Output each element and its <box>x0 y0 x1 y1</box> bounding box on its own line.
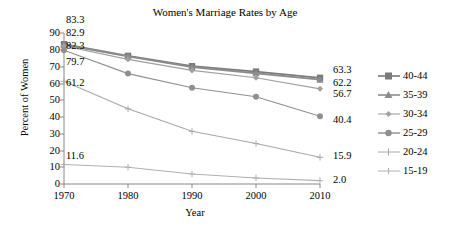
legend-label-25-29: 25-29 <box>403 127 428 138</box>
legend-item-15-19[interactable]: 15-19 <box>378 161 428 180</box>
legend-label-15-19: 15-19 <box>403 165 428 176</box>
legend-item-30-34[interactable]: 30-34 <box>378 104 428 123</box>
legend-item-20-24[interactable]: 20-24 <box>378 142 428 161</box>
y-axis-ticks <box>60 33 64 184</box>
series-35-39 <box>60 41 323 82</box>
value-label-right-4044: 63.3 <box>333 64 351 75</box>
legend-item-35-39[interactable]: 35-39 <box>378 85 428 104</box>
legend-item-25-29[interactable]: 25-29 <box>378 123 428 142</box>
legend-label-35-39: 35-39 <box>403 89 428 100</box>
series-40-44 <box>61 41 323 81</box>
value-label-right-2024: 15.9 <box>333 150 351 161</box>
chart-legend: 40-44 35-39 30-34 25-29 20-24 <box>378 66 428 180</box>
legend-item-40-44[interactable]: 40-44 <box>378 66 428 85</box>
value-label-left-3539: 82.9 <box>66 27 84 38</box>
legend-marker-circle-icon <box>378 127 400 139</box>
series-25-29 <box>61 47 323 119</box>
x-axis-ticks <box>64 184 320 188</box>
value-label-left-1519: 11.6 <box>66 150 84 161</box>
legend-marker-plus-icon <box>378 146 400 158</box>
value-label-right-2529: 40.4 <box>333 114 351 125</box>
legend-label-30-34: 30-34 <box>403 108 428 119</box>
series-layer <box>60 41 323 184</box>
series-15-19 <box>61 161 323 184</box>
value-label-right-3034: 56.7 <box>333 88 351 99</box>
chart-container: Women's Marriage Rates by Age Percent of… <box>0 0 454 230</box>
value-label-left-3034: 82.3 <box>66 40 84 51</box>
value-label-left-4044: 83.3 <box>66 14 84 25</box>
value-label-left-2529: 79.7 <box>66 56 84 67</box>
legend-marker-square-icon <box>378 70 400 82</box>
legend-marker-triangle-icon <box>378 89 400 101</box>
value-label-left-2024: 61.2 <box>66 77 84 88</box>
value-label-right-1519: 2.0 <box>333 174 346 185</box>
legend-label-20-24: 20-24 <box>403 146 428 157</box>
legend-marker-plus-thin-icon <box>378 165 400 177</box>
legend-label-40-44: 40-44 <box>403 70 428 81</box>
legend-marker-diamond-icon <box>378 108 400 120</box>
value-label-right-3539: 62.2 <box>333 77 351 88</box>
